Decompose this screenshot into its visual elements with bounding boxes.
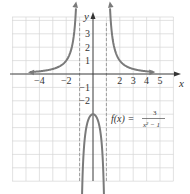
- y-axis-arrow-icon: [91, 12, 96, 19]
- arrow-up-icon: [107, 1, 114, 8]
- x-tick-label: −4: [34, 75, 45, 86]
- x-axis-arrow-icon: [174, 72, 181, 77]
- function-graph: −4−22345321−1−2 x y f(x) = 3 x² − 1: [0, 0, 190, 194]
- y-tick-label: −1: [79, 82, 90, 93]
- x-tick-label: 2: [117, 75, 122, 86]
- function-denominator: x² − 1: [142, 121, 160, 129]
- y-axis-label: y: [83, 10, 89, 22]
- x-tick-label: 5: [158, 75, 163, 86]
- x-axis-label: x: [178, 77, 184, 89]
- x-tick-label: −2: [61, 75, 72, 86]
- arrow-up-icon: [72, 1, 79, 8]
- x-tick-label: 4: [144, 75, 149, 86]
- axes: [10, 12, 181, 181]
- y-tick-label: 2: [85, 42, 90, 53]
- tick-labels: −4−22345321−1−2: [34, 28, 162, 106]
- y-tick-label: −2: [79, 95, 90, 106]
- function-lhs: f(x) =: [111, 113, 134, 125]
- y-tick-label: 1: [85, 55, 90, 66]
- y-tick-label: 3: [85, 28, 90, 39]
- function-curves: [28, 1, 156, 194]
- function-numerator: 3: [153, 109, 157, 117]
- function-annotation: f(x) = 3 x² − 1: [111, 109, 165, 129]
- x-tick-label: 3: [131, 75, 136, 86]
